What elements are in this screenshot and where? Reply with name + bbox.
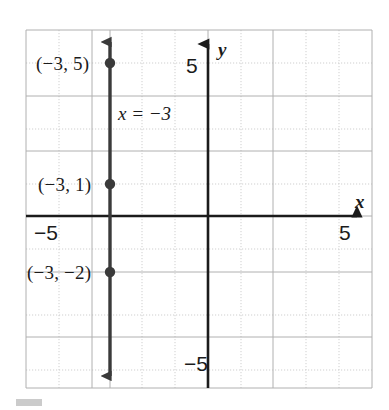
scan-artifact	[16, 399, 42, 406]
y-tick-label-5: 5	[186, 55, 198, 76]
y-axis-label: y	[218, 40, 226, 59]
x-axis-label: x	[355, 192, 365, 211]
y-tick-label-negative-5: −5	[184, 353, 208, 374]
grid-major-lines	[26, 30, 372, 388]
point-marker-middle	[105, 179, 115, 189]
x-tick-label-5: 5	[339, 222, 351, 243]
equation-label: x = −3	[118, 104, 171, 123]
point-marker-bottom	[105, 267, 115, 277]
grid-minor-lines	[26, 30, 372, 388]
point-label-middle: (−3, 1)	[38, 175, 91, 194]
graph-figure: (−3, 5) (−3, 1) (−3, −2) x = −3 y x 5 −5…	[0, 0, 389, 410]
x-tick-label-negative-5: −5	[34, 222, 58, 243]
point-marker-top	[105, 58, 115, 68]
point-label-bottom: (−3, −2)	[27, 263, 91, 282]
point-label-top: (−3, 5)	[36, 54, 89, 73]
